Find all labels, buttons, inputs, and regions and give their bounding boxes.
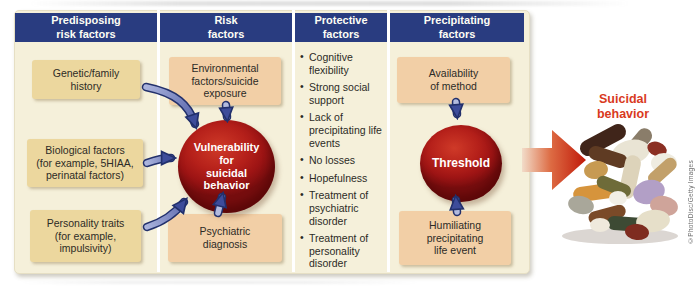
protective-factor-item: No losses	[300, 154, 386, 167]
credit-text: ©PhotoDisc/Getty Images	[687, 128, 694, 244]
column-separator	[292, 10, 295, 272]
protective-factor-item: Strong social support	[300, 81, 386, 106]
protective-factor-item: Hopefulness	[300, 172, 386, 185]
column-separator	[157, 10, 160, 272]
scan-smudge-top	[30, 1, 630, 6]
pills-image	[562, 121, 680, 244]
outcome-label: Suicidal behavior	[578, 92, 668, 122]
protective-factor-item: Cognitive flexibility	[300, 51, 386, 76]
scan-smudge-bottom	[20, 281, 420, 284]
figure-canvas: Predisposing risk factors Risk factors P…	[0, 0, 696, 288]
column-header-predisposing: Predisposing risk factors	[15, 13, 157, 42]
box-biological-factors: Biological factors (for example, 5HIAA, …	[27, 139, 143, 187]
protective-factor-item: Treatment of personality disorder	[300, 232, 386, 270]
node-threshold: Threshold	[420, 125, 502, 202]
box-genetic-family-history: Genetic/family history	[32, 60, 140, 99]
column-header-risk: Risk factors	[160, 13, 292, 42]
box-personality-traits: Personality traits (for example, impulsi…	[30, 210, 141, 262]
column-header-precipitating: Precipitating factors	[390, 13, 524, 42]
box-availability-of-method: Availability of method	[397, 57, 510, 103]
node-vulnerability: Vulnerability for suicidal behavior	[178, 120, 275, 213]
column-header-protective: Protective factors	[295, 13, 387, 42]
protective-factors-list: Cognitive flexibilityStrong social suppo…	[300, 51, 386, 275]
arrow-threshold-to-outcome	[522, 130, 586, 190]
column-separator	[387, 10, 390, 272]
box-humiliating-life-event: Humiliating precipitating life event	[399, 211, 511, 265]
protective-factor-item: Lack of precipitating life events	[300, 111, 386, 149]
box-psychiatric-diagnosis: Psychiatric diagnosis	[168, 214, 282, 262]
protective-factor-item: Treatment of psychiatric disorder	[300, 189, 386, 227]
box-environmental-factors: Environmental factors/suicide exposure	[169, 57, 281, 105]
